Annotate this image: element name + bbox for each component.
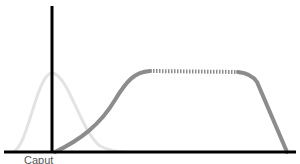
caput-label: Caput — [24, 154, 53, 164]
plateau-curve-fall — [238, 72, 287, 152]
diagram-canvas — [0, 0, 300, 164]
plateau-curve-rise — [55, 71, 150, 152]
plateau-curve-dotted — [150, 71, 238, 72]
